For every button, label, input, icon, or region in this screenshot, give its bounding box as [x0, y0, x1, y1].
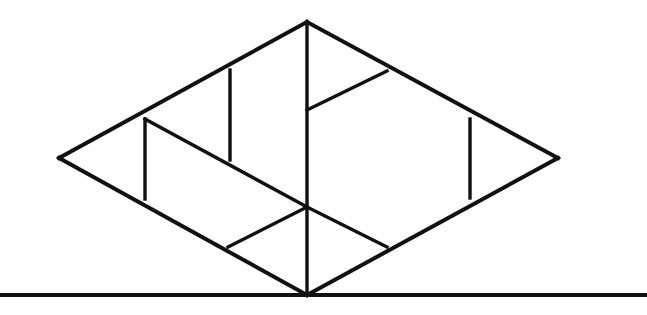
diagram-background — [0, 0, 647, 315]
figure-canvas — [0, 0, 647, 315]
geometric-diagram — [0, 0, 647, 315]
